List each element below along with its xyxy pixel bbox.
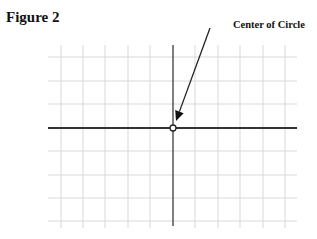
coordinate-grid-diagram [0, 0, 317, 239]
center-point-circle-icon [170, 125, 176, 131]
arrowhead-icon [175, 110, 183, 121]
axes [48, 45, 297, 226]
arrow-pointer [175, 28, 210, 121]
center-point [170, 125, 176, 131]
